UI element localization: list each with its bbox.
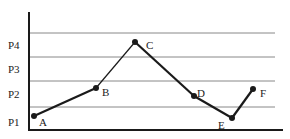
segment-a-b	[34, 88, 96, 116]
point-label-f: F	[260, 88, 266, 99]
point-label-c: C	[146, 40, 153, 51]
y-label-p4: P4	[8, 40, 20, 51]
y-label-p1: P1	[8, 117, 20, 128]
point-f	[250, 86, 256, 92]
segment-c-d	[135, 42, 194, 96]
point-c	[132, 39, 138, 45]
point-b	[93, 85, 99, 91]
y-label-p2: P2	[8, 89, 20, 100]
price-chart: P4 P3 P2 P1 A B C D E F	[0, 0, 290, 139]
point-e	[229, 115, 235, 121]
point-a	[31, 113, 37, 119]
y-label-p3: P3	[8, 64, 20, 75]
point-label-b: B	[102, 87, 109, 98]
point-label-e: E	[218, 120, 225, 131]
segment-e-f	[232, 89, 253, 118]
point-label-d: D	[197, 88, 205, 99]
point-label-a: A	[39, 117, 47, 128]
